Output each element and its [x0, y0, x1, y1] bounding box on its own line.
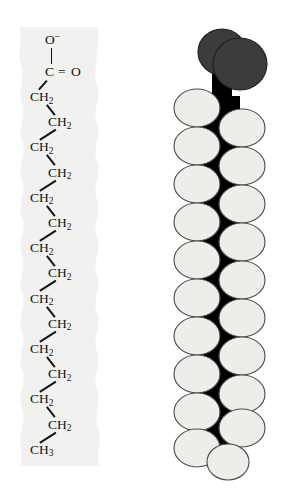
- chain-atom-subscript: 2: [49, 398, 54, 408]
- chain-atom-label: CH3: [30, 443, 54, 457]
- chain-atom-symbol: CH: [48, 316, 67, 331]
- fatty-acid-figure: O– C = O CH2CH2CH2CH2CH2CH2CH2CH2CH2CH2C…: [0, 0, 289, 494]
- carbonyl-double-bond-glyph: =: [58, 65, 66, 79]
- chain-atom-symbol: CH: [48, 165, 67, 180]
- chain-atom-subscript: 2: [49, 146, 54, 156]
- chain-atom-subscript: 2: [67, 171, 72, 181]
- hydrogen-spheres-right: [219, 109, 265, 447]
- chain-atom-subscript: 2: [67, 272, 72, 282]
- oxygen-anion-symbol: O: [45, 32, 55, 47]
- chain-atom-label: CH2: [30, 140, 54, 154]
- chain-atom-label: CH2: [30, 342, 54, 356]
- chain-atom-subscript: 2: [67, 322, 72, 332]
- chain-atom-subscript: 3: [49, 448, 54, 458]
- chain-atom-label: CH2: [48, 418, 72, 432]
- chain-atom-subscript: 2: [67, 373, 72, 383]
- chain-atom-label: CH2: [30, 191, 54, 205]
- chain-atom-symbol: CH: [30, 391, 49, 406]
- chain-atom-symbol: CH: [30, 442, 49, 457]
- bond-o-to-c: [51, 48, 53, 64]
- chain-atom-subscript: 2: [49, 96, 54, 106]
- chain-atom-symbol: CH: [48, 417, 67, 432]
- oxygen-sphere-front: [213, 38, 267, 90]
- structural-formula-panel: O– C = O CH2CH2CH2CH2CH2CH2CH2CH2CH2CH2C…: [0, 0, 130, 494]
- chain-atom-subscript: 2: [49, 196, 54, 206]
- chain-atom-label: CH2: [30, 241, 54, 255]
- chain-atom-label: CH2: [48, 216, 72, 230]
- chain-atom-subscript: 2: [67, 121, 72, 131]
- chain-atom-symbol: CH: [30, 89, 49, 104]
- chain-atom-symbol: CH: [30, 240, 49, 255]
- chain-atom-subscript: 2: [49, 247, 54, 257]
- chain-atom-symbol: CH: [48, 215, 67, 230]
- chain-atom-label: CH2: [48, 367, 72, 381]
- chain-atom-label: CH2: [48, 266, 72, 280]
- chain-atom-label: CH2: [30, 90, 54, 104]
- oxygen-anion-label: O–: [45, 33, 60, 47]
- chain-atom-label: CH2: [30, 392, 54, 406]
- terminal-methyl-hydrogen-sphere: [207, 444, 249, 480]
- chain-atom-symbol: CH: [30, 291, 49, 306]
- chain-atom-symbol: CH: [48, 114, 67, 129]
- space-filling-model-panel: [170, 0, 289, 494]
- chain-atom-label: CH2: [30, 292, 54, 306]
- carbonyl-oxygen-label: O: [71, 65, 81, 79]
- space-filling-model: [170, 0, 289, 494]
- oxygen-anion-charge: –: [55, 31, 60, 41]
- chain-atom-subscript: 2: [49, 297, 54, 307]
- chain-atom-label: CH2: [48, 317, 72, 331]
- chain-atom-symbol: CH: [30, 139, 49, 154]
- chain-atom-symbol: CH: [48, 366, 67, 381]
- chain-atom-label: CH2: [48, 115, 72, 129]
- chain-atom-symbol: CH: [48, 265, 67, 280]
- carboxyl-carbon-label: C: [45, 65, 54, 79]
- chain-atom-subscript: 2: [49, 348, 54, 358]
- chain-atom-symbol: CH: [30, 341, 49, 356]
- chain-atom-subscript: 2: [67, 423, 72, 433]
- chain-atom-label: CH2: [48, 166, 72, 180]
- chain-atom-symbol: CH: [30, 190, 49, 205]
- chain-atom-subscript: 2: [67, 222, 72, 232]
